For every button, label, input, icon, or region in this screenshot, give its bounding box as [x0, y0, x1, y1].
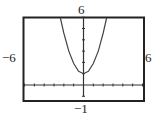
graph-window — [0, 0, 155, 115]
axes — [25, 17, 144, 96]
